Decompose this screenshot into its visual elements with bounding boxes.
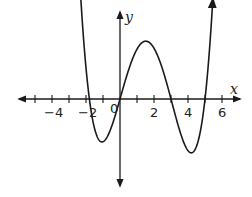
tick-label-6: 6 bbox=[218, 105, 226, 120]
x-axis-label: x bbox=[230, 81, 238, 97]
tick-label-neg4: −4 bbox=[44, 105, 63, 120]
tick-label-4: 4 bbox=[184, 105, 192, 120]
tick-label-neg2: −2 bbox=[78, 105, 97, 120]
function-curve bbox=[79, 0, 213, 153]
y-axis-label: y bbox=[124, 9, 134, 25]
function-graph: −4 −2 0 2 4 6 x y bbox=[0, 0, 252, 197]
tick-label-2: 2 bbox=[150, 105, 158, 120]
